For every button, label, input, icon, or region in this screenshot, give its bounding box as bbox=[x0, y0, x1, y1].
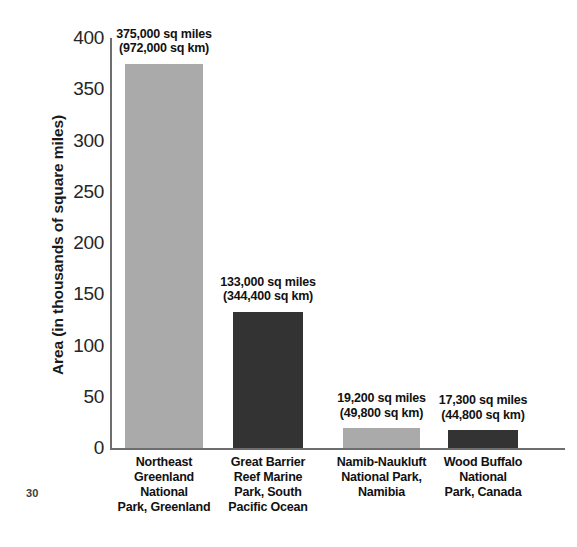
category-label-line: Wood Buffalo bbox=[422, 455, 544, 470]
y-axis-tick-label-group: 400350300250200150100500 bbox=[58, 0, 104, 547]
bar bbox=[448, 430, 518, 448]
bar-group: 375,000 sq miles(972,000 sq km) bbox=[125, 38, 203, 448]
bar-group: 19,200 sq miles(49,800 sq km) bbox=[343, 38, 420, 448]
bar-value-label: 133,000 sq miles(344,400 sq km) bbox=[220, 275, 315, 304]
y-axis-tick-label: 150 bbox=[58, 283, 104, 305]
bar-group: 17,300 sq miles(44,800 sq km) bbox=[448, 38, 518, 448]
bar-value-miles: 19,200 sq miles bbox=[337, 391, 426, 406]
y-axis-tick-label: 300 bbox=[58, 130, 104, 152]
bar-value-miles: 17,300 sq miles bbox=[439, 393, 528, 408]
bar-value-km: (972,000 sq km) bbox=[116, 41, 211, 56]
bar-value-miles: 133,000 sq miles bbox=[220, 275, 315, 290]
x-axis-category-label: Wood BuffaloNationalPark, Canada bbox=[422, 455, 544, 500]
y-axis-tick-label: 50 bbox=[58, 386, 104, 408]
plot-area: 375,000 sq miles(972,000 sq km)133,000 s… bbox=[112, 38, 565, 448]
y-axis-tick-label: 0 bbox=[58, 437, 104, 459]
bar-value-label: 19,200 sq miles(49,800 sq km) bbox=[337, 391, 426, 420]
bar bbox=[343, 428, 420, 448]
category-label-line: Park, South bbox=[207, 485, 329, 500]
bar-value-km: (49,800 sq km) bbox=[337, 406, 426, 421]
bar-value-km: (344,400 sq km) bbox=[220, 289, 315, 304]
y-axis-tick-label: 400 bbox=[58, 27, 104, 49]
x-axis-category-label: Great BarrierReef MarinePark, SouthPacif… bbox=[207, 455, 329, 515]
bar-value-miles: 375,000 sq miles bbox=[116, 27, 211, 42]
category-label-line: Park, Canada bbox=[422, 485, 544, 500]
bar-value-km: (44,800 sq km) bbox=[439, 408, 528, 423]
bar-group: 133,000 sq miles(344,400 sq km) bbox=[233, 38, 303, 448]
bar bbox=[125, 64, 203, 448]
category-label-line: Great Barrier bbox=[207, 455, 329, 470]
category-label-line: Reef Marine bbox=[207, 470, 329, 485]
x-axis-line bbox=[110, 448, 565, 450]
y-axis-tick-label: 250 bbox=[58, 181, 104, 203]
bar bbox=[233, 312, 303, 448]
y-axis-tick-label: 100 bbox=[58, 335, 104, 357]
y-axis-tick-label: 200 bbox=[58, 232, 104, 254]
page-number: 30 bbox=[26, 487, 39, 499]
category-label-line: National bbox=[422, 470, 544, 485]
bar-value-label: 375,000 sq miles(972,000 sq km) bbox=[116, 27, 211, 56]
x-axis-category-label-group: NortheastGreenlandNationalPark, Greenlan… bbox=[112, 455, 565, 525]
bar-value-label: 17,300 sq miles(44,800 sq km) bbox=[439, 393, 528, 422]
y-axis-tick-label: 350 bbox=[58, 78, 104, 100]
category-label-line: Pacific Ocean bbox=[207, 500, 329, 515]
bar-chart-figure: Area (in thousands of square miles) 4003… bbox=[0, 0, 577, 547]
